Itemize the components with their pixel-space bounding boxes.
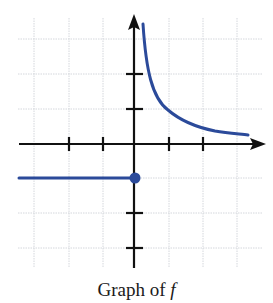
closed-endpoint	[130, 173, 141, 184]
graph-of-f	[0, 0, 273, 275]
caption-function-name: f	[170, 279, 175, 300]
reciprocal-curve	[143, 24, 248, 135]
graph-caption: Graph of f	[0, 279, 273, 301]
caption-text: Graph of	[97, 279, 170, 300]
axes	[19, 24, 258, 268]
